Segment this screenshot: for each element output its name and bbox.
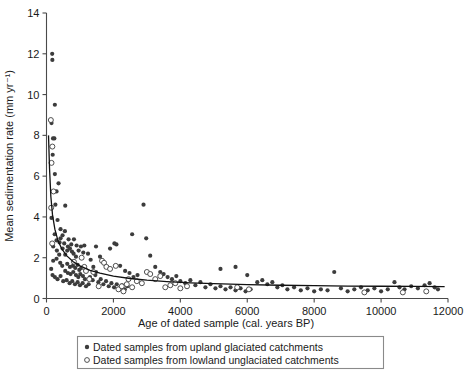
data-point-filled (53, 103, 57, 107)
scatter-chart-figure: 02468101214 020004000600080001000012000 … (0, 0, 474, 380)
data-point-filled (319, 287, 323, 291)
data-point-filled (135, 273, 139, 277)
data-point-filled (50, 273, 54, 277)
data-point-filled (115, 282, 119, 286)
data-point-filled (77, 248, 81, 252)
data-point-filled (265, 282, 269, 286)
data-point-filled (60, 264, 64, 268)
data-point-filled (325, 288, 329, 292)
data-point-open (139, 281, 144, 286)
data-point-filled (81, 281, 85, 285)
legend-label-lowland: Dated samples from lowland unglaciated c… (93, 354, 339, 366)
data-point-filled (50, 52, 54, 56)
y-tick-label: 0 (33, 293, 39, 305)
data-point-filled (57, 253, 61, 257)
data-point-filled (379, 289, 383, 293)
x-tick-label: 8000 (302, 305, 326, 317)
data-point-filled (52, 136, 56, 140)
data-point-filled (203, 285, 207, 289)
data-point-open (235, 285, 240, 290)
data-point-filled (109, 281, 113, 285)
data-point-filled (51, 153, 55, 157)
legend-label-upland: Dated samples from upland glaciated catc… (93, 341, 323, 353)
data-point-open (96, 284, 101, 289)
data-point-open (148, 272, 153, 277)
y-tick-label: 14 (27, 7, 39, 19)
data-point-filled (305, 286, 309, 290)
x-tick-label: 4000 (168, 305, 192, 317)
data-point-filled (170, 277, 174, 281)
data-point-open (246, 287, 251, 292)
data-point-filled (141, 203, 145, 207)
data-point-filled (63, 204, 67, 208)
data-point-filled (193, 283, 197, 287)
data-point-filled (346, 289, 350, 293)
y-tick-label: 8 (33, 129, 39, 141)
data-point-open (113, 263, 118, 268)
data-point-filled (64, 278, 68, 282)
data-point-open (50, 144, 55, 149)
data-point-filled (55, 277, 59, 281)
data-point-open (158, 274, 163, 279)
data-point-open (119, 284, 124, 289)
data-point-filled (56, 181, 60, 185)
data-point-filled (332, 270, 336, 274)
data-point-filled (89, 258, 93, 262)
x-axis-ticks (47, 299, 449, 303)
data-point-open (163, 285, 168, 290)
data-point-open (124, 282, 129, 287)
series-lowland-unglaciated (48, 118, 428, 295)
data-point-filled (392, 280, 396, 284)
data-point-filled (66, 237, 70, 241)
data-point-filled (166, 275, 170, 279)
data-point-filled (285, 287, 289, 291)
data-point-open (400, 290, 405, 295)
data-point-filled (260, 278, 264, 282)
data-point-filled (94, 244, 98, 248)
data-point-filled (144, 236, 148, 240)
data-point-open (130, 285, 135, 290)
data-point-filled (86, 252, 90, 256)
series-upland-glaciated (49, 52, 440, 294)
data-point-open (51, 189, 56, 194)
data-point-filled (352, 287, 356, 291)
x-tick-label: 12000 (433, 305, 464, 317)
y-tick-label: 6 (33, 170, 39, 182)
data-point-filled (50, 58, 54, 62)
chart-canvas: 02468101214 020004000600080001000012000 … (0, 0, 474, 380)
best-fit-curve (49, 135, 445, 286)
data-point-filled (114, 242, 118, 246)
data-point-open (424, 289, 429, 294)
y-axis-tick-labels: 02468101214 (27, 7, 39, 305)
data-point-filled (53, 203, 57, 207)
y-axis-title: Mean sedimentation rate (mm yr⁻¹) (3, 70, 15, 242)
data-point-open (108, 266, 113, 271)
y-tick-label: 10 (27, 89, 39, 101)
data-point-filled (213, 286, 217, 290)
data-point-filled (218, 267, 222, 271)
data-point-open (168, 283, 173, 288)
data-point-filled (386, 287, 390, 291)
data-point-filled (91, 265, 95, 269)
data-point-filled (51, 259, 55, 263)
data-point-filled (299, 288, 303, 292)
data-point-filled (49, 267, 53, 271)
data-point-open (50, 241, 55, 246)
data-point-filled (228, 285, 232, 289)
data-point-filled (55, 248, 59, 252)
data-point-open (79, 255, 84, 260)
data-point-filled (87, 282, 91, 286)
x-tick-label: 10000 (366, 305, 397, 317)
data-point-filled (81, 251, 85, 255)
data-point-filled (208, 282, 212, 286)
x-tick-label: 2000 (101, 305, 125, 317)
data-point-filled (53, 172, 57, 176)
data-point-filled (72, 237, 76, 241)
data-point-filled (233, 265, 237, 269)
data-point-open (48, 118, 53, 123)
y-tick-label: 12 (27, 48, 39, 60)
legend-marker-open-circle-icon (85, 358, 90, 363)
data-point-filled (270, 280, 274, 284)
data-point-filled (123, 269, 127, 273)
y-axis-ticks (43, 13, 47, 299)
